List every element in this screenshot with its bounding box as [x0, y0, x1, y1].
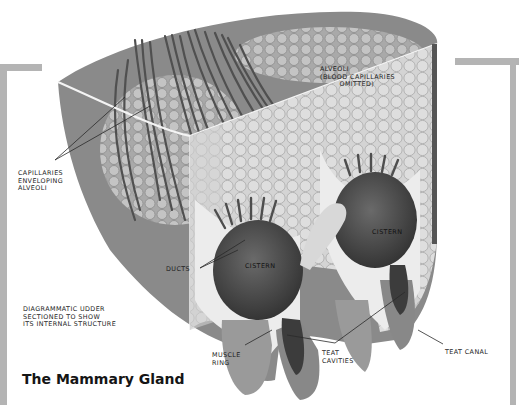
udder-illustration	[0, 0, 519, 405]
label-alveoli: ALVEOLI (BLOOD CAPILLARIES OMITTED)	[320, 66, 395, 89]
figure-caption: DIAGRAMMATIC UDDER SECTIONED TO SHOW ITS…	[23, 306, 116, 329]
label-cistern-left: CISTERN	[245, 263, 275, 271]
label-cistern-right: CISTERN	[372, 229, 402, 237]
label-teat-cavities: TEAT CAVITIES	[322, 350, 354, 365]
label-capillaries: CAPILLARIES ENVELOPING ALVEOLI	[18, 170, 63, 193]
label-teat-canal: TEAT CANAL	[445, 349, 488, 357]
label-ducts: DUCTS	[166, 266, 190, 274]
cistern-right	[333, 172, 417, 268]
figure-title: The Mammary Gland	[22, 371, 185, 387]
label-muscle-ring: MUSCLE RING	[212, 352, 241, 367]
